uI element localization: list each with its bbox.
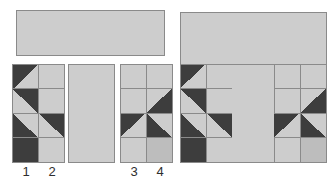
square-c1-r4 <box>12 138 38 163</box>
square-c4-r4 <box>146 138 172 163</box>
piece-label-2: 2 <box>42 164 62 179</box>
square-c3-r1 <box>120 64 146 89</box>
assembled-block <box>180 12 326 162</box>
hst-c1-r2 <box>12 89 38 114</box>
square-c3-r4 <box>120 138 146 163</box>
a-square-c4-r4 <box>300 138 326 163</box>
hst-c4-r2 <box>146 89 172 114</box>
unit-columns-3-4 <box>120 64 172 162</box>
assembled-plain-strip <box>232 64 274 162</box>
hst-c1-r1 <box>12 64 38 91</box>
square-c2-r2 <box>38 89 64 114</box>
hst-c3-r3 <box>120 113 146 138</box>
square-c4-r1 <box>146 64 172 89</box>
hst-c4-r3 <box>146 113 172 138</box>
quilt-diagram-svg <box>0 0 332 183</box>
assembled-top-strip <box>180 12 326 64</box>
top-border-strip <box>16 10 164 55</box>
square-c2-r4 <box>38 138 64 163</box>
hst-c2-r3 <box>38 113 64 138</box>
piece-label-1: 1 <box>16 164 36 179</box>
quilt-diagram-stage: 1 2 3 4 <box>0 0 332 183</box>
unit-columns-1-2 <box>12 64 64 162</box>
square-c2-r1 <box>38 64 64 89</box>
a-square-c1-r4 <box>180 138 206 163</box>
square-c3-r2 <box>120 89 146 114</box>
unit-plain-strip <box>68 64 114 162</box>
piece-label-3: 3 <box>124 164 144 179</box>
piece-label-4: 4 <box>150 164 170 179</box>
hst-c1-r3 <box>12 113 38 138</box>
